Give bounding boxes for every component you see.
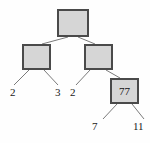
edge-right-rightright	[106, 70, 120, 78]
tree-leaf-1: 2	[10, 87, 16, 98]
tree-leaf-4: 7	[92, 121, 98, 132]
tree-leaf-2: 3	[55, 87, 61, 98]
tree-node-left	[22, 44, 51, 70]
edge-root-right	[78, 37, 95, 44]
edge-rr-leaf4	[103, 104, 117, 119]
tree-node-root	[57, 9, 89, 37]
tree-leaf-5: 11	[133, 121, 144, 132]
tree-node-right-right: 77	[110, 78, 139, 104]
edge-left-leaf1	[14, 70, 29, 85]
edge-rr-leaf5	[132, 104, 144, 119]
edge-root-left	[42, 37, 68, 44]
tree-leaf-3: 2	[70, 87, 76, 98]
edge-left-leaf2	[44, 70, 58, 85]
binary-tree-figure: 77 232711	[0, 0, 150, 143]
edge-right-leaf3	[76, 70, 90, 85]
tree-node-label: 77	[119, 86, 130, 97]
tree-node-right	[84, 44, 113, 70]
